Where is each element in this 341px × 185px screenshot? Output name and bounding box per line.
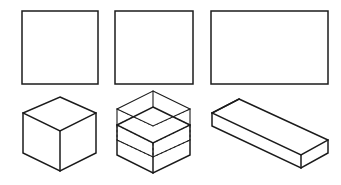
rectangle-outline-right bbox=[211, 11, 328, 84]
technical-drawing-figure bbox=[0, 0, 341, 185]
figure-canvas bbox=[0, 0, 341, 185]
top-row-group bbox=[22, 11, 328, 84]
square-outline-left bbox=[22, 11, 98, 84]
square-outline-middle bbox=[115, 11, 193, 84]
